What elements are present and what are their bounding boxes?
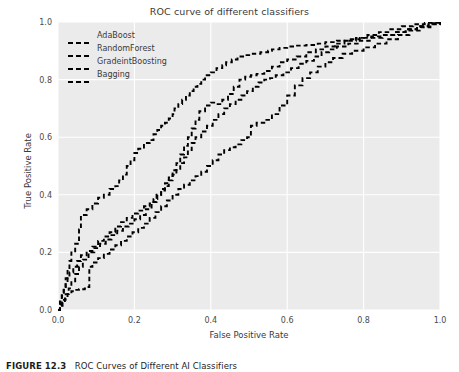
x-tick-label: 0.2 (128, 316, 141, 325)
figure-caption-text (66, 361, 74, 371)
x-tick-label: 1.0 (434, 316, 447, 325)
plot-panel: AdaBoostRandomForestGradeintBoostingBagg… (58, 22, 440, 310)
legend-line-icon (68, 45, 90, 53)
legend-item-adaboost[interactable]: AdaBoost (68, 29, 167, 42)
x-tick-label: 0.4 (204, 316, 217, 325)
figure-caption-label: FIGURE 12.3 (6, 361, 66, 371)
legend-item-randomforest[interactable]: RandomForest (68, 42, 167, 55)
figure-caption: FIGURE 12.3 ROC Curves of Different AI C… (6, 361, 237, 371)
roc-figure: ROC curve of different classifiers AdaBo… (0, 0, 459, 348)
legend-line-icon (68, 71, 90, 79)
y-tick-label: 0.0 (28, 306, 52, 315)
legend-item-label: Bagging (97, 70, 130, 79)
y-tick-label: 1.0 (28, 18, 52, 27)
y-tick-label: 0.8 (28, 75, 52, 84)
legend-item-label: AdaBoost (97, 31, 135, 40)
legend-line-icon (68, 32, 90, 40)
figure-caption-body: ROC Curves of Different AI Classifiers (75, 361, 237, 371)
legend-item-bagging[interactable]: Bagging (68, 68, 167, 81)
chart-legend: AdaBoostRandomForestGradeintBoostingBagg… (64, 27, 171, 83)
legend-item-label: GradeintBoosting (97, 57, 167, 66)
legend-item-gradeintboosting[interactable]: GradeintBoosting (68, 55, 167, 68)
legend-item-label: RandomForest (97, 44, 155, 53)
x-tick-label: 0.8 (357, 316, 370, 325)
chart-title: ROC curve of different classifiers (0, 6, 459, 17)
x-tick-label: 0.6 (281, 316, 294, 325)
legend-line-icon (68, 58, 90, 66)
x-tick-label: 0.0 (52, 316, 65, 325)
x-axis-label: False Positive Rate (58, 330, 440, 340)
y-axis-label: True Positive Rate (23, 91, 33, 251)
